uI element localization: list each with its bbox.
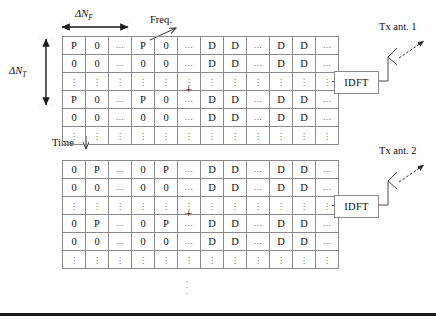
sum-operator-branch-2: + (185, 207, 192, 220)
grid-cell-d: D (270, 109, 293, 127)
grid-cell-d: D (293, 55, 316, 73)
grid-cell-vertical-ellipsis: ... (201, 197, 224, 215)
grid-row: DD...DD... (201, 91, 339, 109)
grid-cell-horizontal-ellipsis: ... (109, 179, 132, 197)
grid-cell-p: P (63, 91, 86, 109)
grid-cell-d: D (201, 37, 224, 55)
grid-cell-horizontal-ellipsis: ... (109, 161, 132, 179)
grid-cell-d: D (224, 37, 247, 55)
grid-cell-d: D (293, 179, 316, 197)
grid-cell-0: 0 (155, 55, 178, 73)
grid-cell-p: P (86, 161, 109, 179)
grid-cell-vertical-ellipsis: ... (224, 251, 247, 269)
grid-row: DD...DD... (201, 161, 339, 179)
grid-cell-d: D (270, 233, 293, 251)
grid-cell-horizontal-ellipsis: ... (247, 55, 270, 73)
grid-cell-d: D (201, 215, 224, 233)
grid-cell-vertical-ellipsis: ... (201, 127, 224, 145)
grid-cell-vertical-ellipsis: ... (63, 127, 86, 145)
grid-cell-d: D (201, 161, 224, 179)
grid-cell-d: D (224, 179, 247, 197)
grid-cell-horizontal-ellipsis: ... (247, 109, 270, 127)
grid-cell-d: D (224, 215, 247, 233)
grid-cell-vertical-ellipsis: ... (178, 251, 201, 269)
grid-cell-vertical-ellipsis: ... (132, 197, 155, 215)
grid-cell-0: 0 (155, 37, 178, 55)
delta-nf-dimension-arrow (62, 20, 128, 34)
branch-continuation-dots: ··· (182, 278, 192, 296)
delta-nf-label: ΔNF (75, 9, 93, 22)
grid-cell-0: 0 (86, 233, 109, 251)
grid-cell-0: 0 (132, 179, 155, 197)
grid-cell-horizontal-ellipsis: ... (316, 179, 339, 197)
grid-cell-p: P (132, 37, 155, 55)
grid-cell-vertical-ellipsis: ... (293, 251, 316, 269)
grid-row: .................. (63, 197, 201, 215)
grid-row: 00...00... (63, 179, 201, 197)
delta-nt-label: ΔNT (9, 66, 26, 79)
grid-cell-vertical-ellipsis: ... (155, 251, 178, 269)
grid-cell-vertical-ellipsis: ... (86, 197, 109, 215)
grid-cell-d: D (293, 161, 316, 179)
figure-bottom-rule (0, 313, 436, 316)
grid-cell-p: P (155, 161, 178, 179)
grid-cell-p: P (155, 215, 178, 233)
sum-operator-branch-1: + (185, 83, 192, 96)
grid-cell-horizontal-ellipsis: ... (316, 37, 339, 55)
grid-cell-d: D (224, 233, 247, 251)
grid-row: DD...DD... (201, 215, 339, 233)
grid-cell-d: D (270, 161, 293, 179)
grid-cell-horizontal-ellipsis: ... (178, 37, 201, 55)
grid-cell-d: D (201, 233, 224, 251)
grid-cell-d: D (293, 109, 316, 127)
grid-cell-vertical-ellipsis: ... (132, 251, 155, 269)
grid-cell-vertical-ellipsis: ... (293, 127, 316, 145)
grid-cell-horizontal-ellipsis: ... (178, 109, 201, 127)
grid-cell-0: 0 (63, 109, 86, 127)
grid-cell-d: D (201, 55, 224, 73)
grid-cell-vertical-ellipsis: ... (270, 251, 293, 269)
grid-cell-0: 0 (86, 91, 109, 109)
antenna-1-label: Tx ant. 1 (379, 22, 417, 33)
grid-cell-horizontal-ellipsis: ... (316, 109, 339, 127)
grid-cell-vertical-ellipsis: ... (270, 197, 293, 215)
grid-cell-0: 0 (155, 179, 178, 197)
grid-cell-horizontal-ellipsis: ... (247, 37, 270, 55)
grid-cell-horizontal-ellipsis: ... (316, 233, 339, 251)
grid-cell-0: 0 (63, 179, 86, 197)
grid-row: DD...DD... (201, 179, 339, 197)
grid-cell-horizontal-ellipsis: ... (247, 179, 270, 197)
grid-cell-0: 0 (63, 233, 86, 251)
grid-cell-d: D (270, 179, 293, 197)
grid-cell-d: D (201, 91, 224, 109)
grid-row: .................. (201, 73, 339, 91)
grid-cell-vertical-ellipsis: ... (270, 127, 293, 145)
grid-cell-horizontal-ellipsis: ... (247, 91, 270, 109)
grid-row: 00...00... (63, 233, 201, 251)
grid-cell-d: D (270, 215, 293, 233)
grid-cell-0: 0 (132, 55, 155, 73)
idft-block-antenna-1[interactable]: IDFT (334, 71, 379, 94)
pilot-grid-antenna-1: P0...P0...00...00.....................P0… (62, 36, 201, 145)
grid-cell-d: D (224, 55, 247, 73)
data-grid-antenna-1: DD...DD...DD...DD.....................DD… (200, 36, 339, 145)
grid-cell-vertical-ellipsis: ... (247, 251, 270, 269)
grid-cell-horizontal-ellipsis: ... (109, 109, 132, 127)
continuation-dot: · (182, 290, 192, 296)
grid-cell-vertical-ellipsis: ... (270, 73, 293, 91)
grid-cell-0: 0 (132, 215, 155, 233)
grid-cell-0: 0 (132, 109, 155, 127)
grid-cell-d: D (293, 37, 316, 55)
grid-cell-0: 0 (63, 161, 86, 179)
grid-cell-vertical-ellipsis: ... (155, 73, 178, 91)
grid-cell-d: D (201, 179, 224, 197)
grid-row: 00...00... (63, 55, 201, 73)
grid-cell-horizontal-ellipsis: ... (178, 55, 201, 73)
grid-cell-horizontal-ellipsis: ... (178, 179, 201, 197)
delta-nt-dimension-arrow (39, 39, 53, 105)
idft-block-antenna-2[interactable]: IDFT (334, 195, 379, 218)
grid-cell-vertical-ellipsis: ... (247, 73, 270, 91)
grid-cell-0: 0 (132, 161, 155, 179)
grid-cell-0: 0 (86, 109, 109, 127)
grid-cell-0: 0 (63, 55, 86, 73)
